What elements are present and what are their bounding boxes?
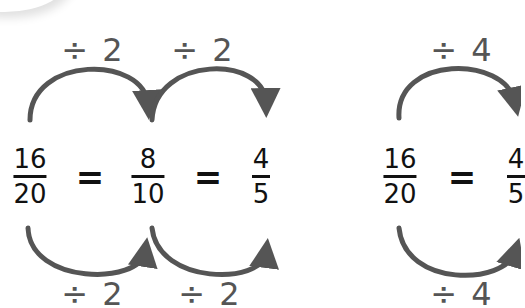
operator-top-right: ÷ 4	[430, 34, 493, 66]
denominator: 10	[131, 178, 164, 207]
arc-arrow-top-2	[152, 69, 266, 120]
operator-bottom-right: ÷ 4	[430, 278, 493, 308]
denominator: 20	[383, 178, 416, 207]
numerator: 16	[13, 146, 46, 175]
fraction-16-20: 16 20	[13, 146, 46, 207]
operator-bottom-1: ÷ 2	[61, 278, 124, 308]
arc-arrow-top-1	[30, 69, 148, 120]
fraction-8-10: 8 10	[131, 146, 164, 207]
equals-sign-1: =	[76, 160, 105, 194]
arc-arrow-top-right	[399, 69, 515, 118]
numerator: 4	[253, 146, 270, 175]
numerator: 4	[508, 146, 525, 175]
denominator: 5	[253, 178, 270, 207]
fraction-16-20-right: 16 20	[383, 146, 416, 207]
equals-sign-2: =	[194, 160, 223, 194]
operator-top-1: ÷ 2	[61, 34, 124, 66]
operator-top-2: ÷ 2	[171, 34, 234, 66]
operator-bottom-2: ÷ 2	[178, 278, 241, 308]
arc-arrow-bottom-right	[399, 228, 515, 275]
fraction-4-5-right: 4 5	[507, 146, 525, 207]
denominator: 20	[13, 178, 46, 207]
denominator: 5	[508, 178, 525, 207]
numerator: 8	[140, 146, 157, 175]
arc-arrow-bottom-1	[28, 228, 145, 274]
arc-arrow-bottom-2	[152, 228, 266, 275]
numerator: 16	[383, 146, 416, 175]
equals-sign-right: =	[448, 160, 477, 194]
fraction-4-5: 4 5	[252, 146, 270, 207]
